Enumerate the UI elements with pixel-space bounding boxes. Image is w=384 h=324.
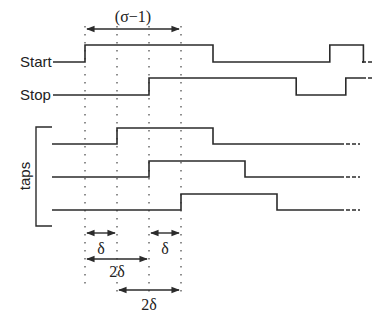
interval-label-3: 2δ	[141, 296, 157, 313]
start-label: Start	[20, 53, 53, 70]
waveforms	[52, 45, 372, 210]
taps-group: taps	[16, 127, 52, 226]
sigma-span-label: (σ−1)	[115, 8, 151, 26]
interval-markers: δδ2δ2δ	[87, 233, 179, 313]
stop-label: Stop	[20, 86, 51, 103]
taps-bracket	[36, 127, 52, 226]
tap-1-waveform	[52, 128, 340, 144]
interval-label-2: 2δ	[109, 263, 125, 280]
taps-label: taps	[16, 162, 33, 190]
top-span: (σ−1)	[87, 8, 179, 29]
timing-diagram: (σ−1) Start Stop taps δδ2δ2δ	[0, 0, 384, 324]
interval-label-1: δ	[161, 240, 169, 257]
tap-2-waveform	[52, 161, 340, 177]
stop-waveform	[53, 78, 362, 95]
tap-3-waveform	[52, 194, 340, 210]
start-waveform	[53, 45, 363, 62]
interval-label-0: δ	[97, 240, 105, 257]
